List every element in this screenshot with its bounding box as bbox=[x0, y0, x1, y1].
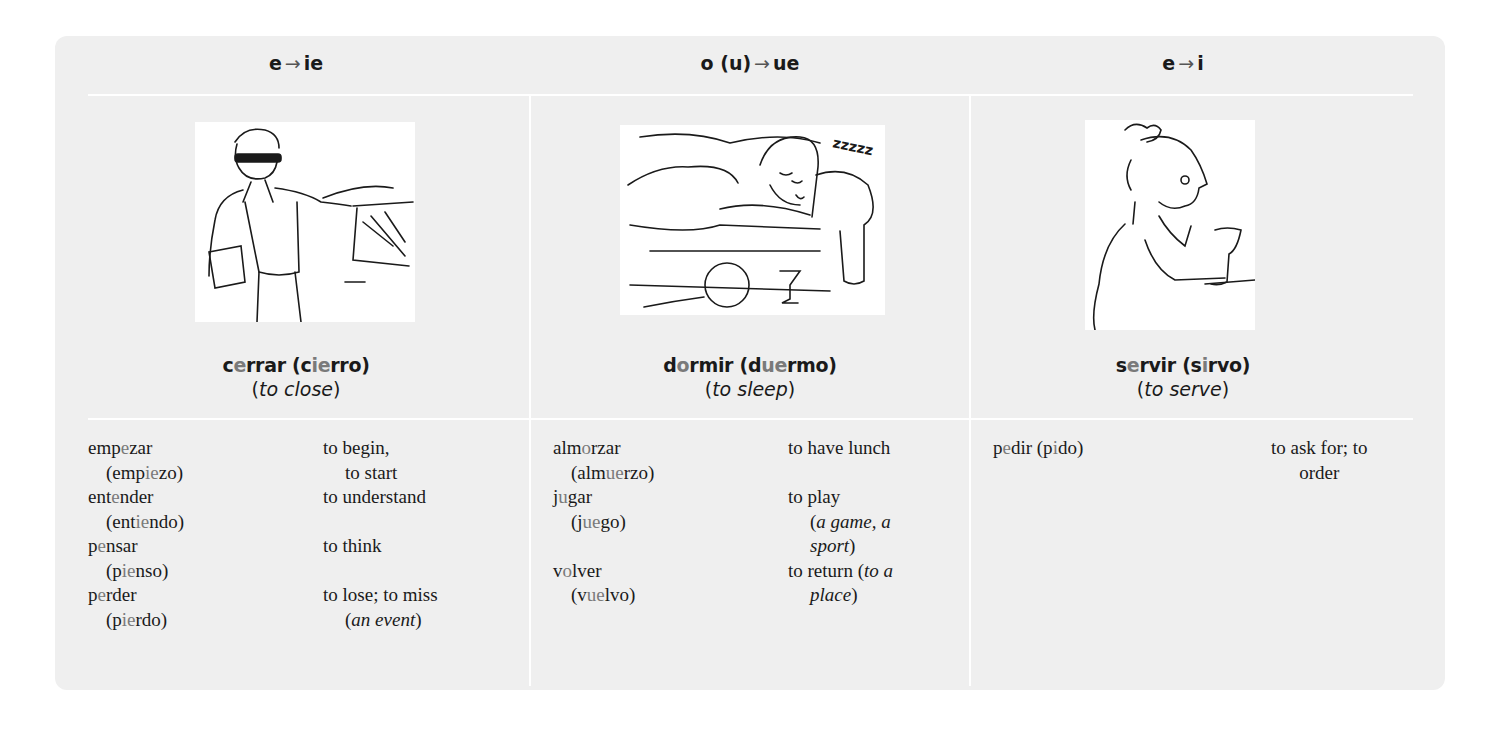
yo-form: (empiezo) bbox=[88, 461, 323, 486]
spanish-verb: volver (vuelvo) bbox=[553, 559, 788, 608]
header-to: ie bbox=[304, 52, 323, 74]
yo-end: rro) bbox=[330, 354, 369, 376]
english-meaning: to think bbox=[323, 534, 382, 583]
stem-vowel: o bbox=[677, 354, 690, 376]
meaning-line: to return (to a bbox=[788, 560, 893, 581]
infinitive: almorzar bbox=[553, 437, 621, 458]
arrow-icon: → bbox=[285, 52, 301, 74]
spanish-verb: entender (entiendo) bbox=[88, 485, 323, 534]
yo-vowel: ie bbox=[122, 609, 136, 630]
stem-vowel: e bbox=[121, 437, 129, 458]
column-divider-2 bbox=[969, 96, 971, 686]
meaning-line: to lose; to miss bbox=[323, 584, 438, 605]
stem-start: emp bbox=[88, 437, 121, 458]
stem-end: rvir bbox=[1139, 354, 1175, 376]
verb-list-o-ue: almorzar (almuerzo) to have lunch jugar … bbox=[553, 436, 893, 608]
yo-form: (juego) bbox=[553, 510, 788, 535]
yo-form: (entiendo) bbox=[88, 510, 323, 535]
list-item: entender (entiendo) to understand bbox=[88, 485, 438, 534]
infinitive-with-yo-form: cerrar (cierro) bbox=[222, 354, 369, 376]
stem-vowel: e bbox=[233, 354, 246, 376]
header-to: ue bbox=[773, 52, 799, 74]
stem-start: s bbox=[1116, 354, 1127, 376]
yo-vowel: ie bbox=[145, 462, 159, 483]
english-gloss: (to serve) bbox=[1116, 378, 1250, 400]
yo-end: rdo) bbox=[136, 609, 168, 630]
yo-vowel: ie bbox=[122, 560, 136, 581]
spanish-verb: almorzar (almuerzo) bbox=[553, 436, 788, 485]
list-item: perder (pierdo) to lose; to miss (an eve… bbox=[88, 583, 438, 632]
paren-open: ( bbox=[705, 378, 712, 400]
meaning-line: place) bbox=[788, 583, 893, 608]
infinitive: empezar bbox=[88, 437, 152, 458]
infinitive: jugar bbox=[553, 486, 592, 507]
stem-end: gar bbox=[568, 486, 592, 507]
stem-start: ent bbox=[88, 486, 111, 507]
yo-end: do) bbox=[1058, 437, 1083, 458]
man-closing-car-door-illustration bbox=[195, 122, 415, 322]
english-gloss: (to close) bbox=[222, 378, 369, 400]
infinitive: perder bbox=[88, 584, 137, 605]
verb-list-e-i: pedir (pido) to ask for; to order bbox=[993, 436, 1368, 485]
english-meaning: to have lunch bbox=[788, 436, 890, 485]
yo-form: (almuerzo) bbox=[553, 461, 788, 486]
gloss-text: to serve bbox=[1144, 378, 1221, 400]
spanish-verb: jugar (juego) bbox=[553, 485, 788, 559]
verb-list-e-ie: empezar (empiezo) to begin, to start ent… bbox=[88, 436, 438, 632]
list-item: pedir (pido) to ask for; to order bbox=[993, 436, 1368, 485]
stem-vowel: u bbox=[558, 486, 568, 507]
meaning-line: to have lunch bbox=[788, 437, 890, 458]
woman-sleeping-on-couch-illustration: zzzzz bbox=[620, 125, 885, 315]
infinitive: volver bbox=[553, 560, 602, 581]
meaning-line: to start bbox=[323, 461, 397, 486]
yo-end: rzo) bbox=[624, 462, 655, 483]
stem-start: v bbox=[553, 560, 563, 581]
header-to: i bbox=[1197, 52, 1204, 74]
stem-vowel: e bbox=[1127, 354, 1140, 376]
yo-vowel: ue bbox=[761, 354, 787, 376]
list-item: volver (vuelvo) to return (to a place) bbox=[553, 559, 893, 608]
featured-divider bbox=[88, 418, 1413, 420]
paren-close: ) bbox=[788, 378, 795, 400]
infinitive-with-yo: pedir (pido) bbox=[993, 437, 1083, 458]
english-meaning: to return (to a place) bbox=[788, 559, 893, 608]
yo-form: (vuelvo) bbox=[553, 583, 788, 608]
english-meaning: to play (a game, a sport) bbox=[788, 485, 891, 559]
yo-vowel: ue bbox=[606, 462, 624, 483]
list-item: empezar (empiezo) to begin, to start bbox=[88, 436, 438, 485]
english-meaning: to understand bbox=[323, 485, 426, 534]
stem-end: dir bbox=[1011, 437, 1032, 458]
meaning-text: to return ( bbox=[788, 560, 864, 581]
yo-end: lvo) bbox=[605, 584, 636, 605]
meaning-line: to understand bbox=[323, 486, 426, 507]
yo-end: rvo) bbox=[1208, 354, 1250, 376]
yo-start: (c bbox=[292, 354, 311, 376]
spanish-verb: pensar (pienso) bbox=[88, 534, 323, 583]
stem-end: lver bbox=[572, 560, 602, 581]
yo-start: (ent bbox=[106, 511, 136, 532]
spanish-verb: pedir (pido) bbox=[993, 436, 1271, 485]
stem-start: p bbox=[993, 437, 1003, 458]
yo-start: (s bbox=[1182, 354, 1201, 376]
english-gloss: (to sleep) bbox=[663, 378, 837, 400]
arrow-icon: → bbox=[754, 52, 770, 74]
meaning-italic: to a bbox=[864, 560, 893, 581]
stem-vowel: e bbox=[98, 535, 106, 556]
paren-close: ) bbox=[333, 378, 340, 400]
gloss-text: to close bbox=[259, 378, 333, 400]
featured-verb-dormir: dormir (duermo) (to sleep) bbox=[663, 354, 837, 400]
infinitive: entender bbox=[88, 486, 153, 507]
meaning-italic: sport bbox=[810, 535, 849, 556]
stem-vowel: e bbox=[111, 486, 119, 507]
featured-verb-cerrar: cerrar (cierro) (to close) bbox=[222, 354, 369, 400]
yo-end: zo) bbox=[159, 462, 183, 483]
yo-end: rmo) bbox=[787, 354, 837, 376]
featured-verb-servir: servir (sirvo) (to serve) bbox=[1116, 354, 1250, 400]
waitress-serving-drink-illustration bbox=[1085, 120, 1255, 330]
column-divider-1 bbox=[529, 96, 531, 686]
stem-vowel: o bbox=[582, 437, 592, 458]
english-meaning: to lose; to miss (an event) bbox=[323, 583, 438, 632]
arrow-icon: → bbox=[1178, 52, 1194, 74]
paren-open: ( bbox=[252, 378, 259, 400]
header-e-ie: e→ie bbox=[269, 52, 323, 74]
